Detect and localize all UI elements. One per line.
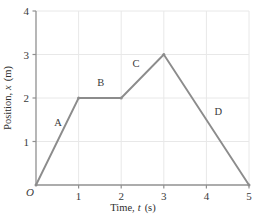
y-tick-label: 1 <box>24 136 30 148</box>
y-tick-label: 2 <box>24 92 30 104</box>
x-tick-label: 1 <box>76 190 82 202</box>
data-vertex <box>35 184 38 187</box>
segment-label-d: D <box>215 106 223 117</box>
x-tick-label: 5 <box>246 190 252 202</box>
svg-text:Time,t(s): Time,t(s) <box>110 202 156 214</box>
segment-label-b: B <box>97 77 104 88</box>
svg-text:Position,x(m): Position,x(m) <box>2 66 14 130</box>
x-tick-label: 4 <box>204 190 210 202</box>
data-vertex <box>162 53 165 56</box>
y-axis-title-unit: (m) <box>2 66 14 82</box>
x-axis-title-unit: (s) <box>145 202 157 214</box>
y-tick-label: 3 <box>24 49 30 61</box>
data-vertex <box>248 184 251 187</box>
data-vertex <box>77 97 80 100</box>
y-axis-title: Position,x(m) <box>2 66 14 130</box>
x-axis-title: Time,t(s) <box>110 202 156 214</box>
x-tick-label: 3 <box>161 190 167 202</box>
position-time-chart: 12345 1234 ABCD O Time,t(s) Position,x(m… <box>0 0 260 217</box>
y-tick-label: 4 <box>24 5 30 17</box>
y-axis-title-variable: x <box>2 85 13 91</box>
origin-label: O <box>26 186 34 198</box>
x-tick-label: 2 <box>118 190 124 202</box>
y-axis-title-text: Position, <box>2 93 13 130</box>
segment-label-c: C <box>133 58 140 69</box>
segment-label-a: A <box>54 117 62 128</box>
chart-canvas: 12345 1234 ABCD O Time,t(s) Position,x(m… <box>0 0 260 217</box>
x-axis-title-text: Time, <box>110 202 134 213</box>
data-vertex <box>120 97 123 100</box>
